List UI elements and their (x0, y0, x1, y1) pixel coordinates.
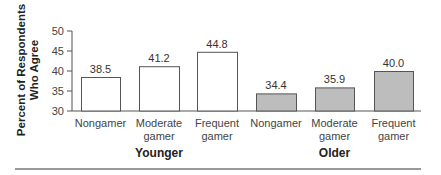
bar-chart: 3035404550Percent of RespondentsWho Agre… (0, 0, 441, 175)
y-tick-label: 35 (52, 85, 64, 97)
y-tick-label: 50 (52, 25, 64, 37)
bar-value-label: 41.2 (148, 52, 169, 64)
bar-older-2 (316, 88, 355, 111)
y-tick-label: 40 (52, 65, 64, 77)
category-label: Moderate (136, 117, 182, 129)
category-label: Moderate (311, 117, 357, 129)
category-label: gamer (143, 130, 175, 142)
group-label: Older (319, 146, 351, 160)
category-label: gamer (378, 130, 410, 142)
category-label: gamer (319, 130, 351, 142)
y-tick-label: 45 (52, 45, 64, 57)
bar-value-label: 38.5 (90, 63, 111, 75)
bar-value-label: 35.9 (324, 73, 345, 85)
category-label: Nongamer (250, 117, 302, 129)
group-label: Younger (135, 146, 183, 160)
bar-older-1 (257, 94, 297, 111)
bar-value-label: 44.8 (206, 38, 227, 50)
bar-value-label: 34.4 (265, 79, 286, 91)
bar-younger-3 (198, 52, 238, 111)
bar-younger-2 (140, 67, 180, 111)
y-tick-label: 30 (52, 105, 64, 117)
category-label: Nongamer (75, 117, 127, 129)
category-label: gamer (201, 130, 233, 142)
bar-younger-1 (82, 78, 121, 112)
category-label: Frequent (195, 117, 239, 129)
bar-older-3 (375, 72, 414, 112)
y-axis-title: Percent of RespondentsWho Agree (15, 4, 40, 136)
bar-value-label: 40.0 (383, 57, 404, 69)
category-label: Frequent (371, 117, 415, 129)
